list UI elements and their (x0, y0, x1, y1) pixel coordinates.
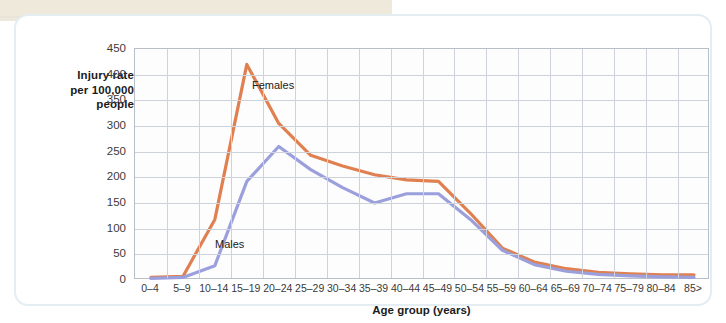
gridline-vertical (614, 49, 615, 278)
gridline-horizontal (135, 177, 708, 178)
x-axis-tick-label: 20–24 (263, 282, 292, 294)
x-axis-tick-label: 60–64 (519, 282, 548, 294)
x-axis-tick-label: 75–79 (615, 282, 644, 294)
y-axis-tick-label: 450 (107, 42, 126, 54)
gridline-vertical (582, 49, 583, 278)
x-axis-tick-label: 65–69 (551, 282, 580, 294)
series-label-males: Males (215, 238, 244, 250)
x-axis-tick-label: 15–19 (231, 282, 260, 294)
gridline-vertical (199, 49, 200, 278)
y-axis-tick-label: 400 (107, 68, 126, 80)
y-axis-tick-labels: 050100150200250300350400450 (16, 16, 134, 279)
x-axis-tick-label: 35–39 (359, 282, 388, 294)
x-axis-tick-label: 25–29 (295, 282, 324, 294)
gridline-horizontal (135, 254, 708, 255)
y-axis-tick-label: 350 (107, 93, 126, 105)
y-axis-tick-label: 250 (107, 145, 126, 157)
gridline-vertical (678, 49, 679, 278)
gridline-vertical (423, 49, 424, 278)
gridline-vertical (391, 49, 392, 278)
gridline-vertical (167, 49, 168, 278)
y-axis-tick-label: 200 (107, 170, 126, 182)
x-axis-tick-label: 80–84 (646, 282, 675, 294)
gridline-vertical (327, 49, 328, 278)
x-axis-tick-label: 70–74 (583, 282, 612, 294)
x-axis-tick-label: 50–54 (455, 282, 484, 294)
x-axis-tick-label: 40–44 (391, 282, 420, 294)
gridline-horizontal (135, 203, 708, 204)
x-axis-title: Age group (years) (134, 304, 709, 316)
gridline-vertical (486, 49, 487, 278)
x-axis-tick-label: 55–59 (487, 282, 516, 294)
x-axis-tick-label: 5–9 (173, 282, 191, 294)
y-axis-tick-label: 300 (107, 119, 126, 131)
gridline-vertical (646, 49, 647, 278)
gridline-vertical (359, 49, 360, 278)
gridline-horizontal (135, 75, 708, 76)
chart-page: Injury rate per 100,000 people 050100150… (0, 0, 726, 323)
y-axis-tick-label: 150 (107, 196, 126, 208)
x-axis-tick-label: 85> (684, 282, 702, 294)
gridline-vertical (454, 49, 455, 278)
x-axis-tick-label: 45–49 (423, 282, 452, 294)
x-axis-tick-label: 30–34 (327, 282, 356, 294)
gridline-vertical (295, 49, 296, 278)
gridline-horizontal (135, 229, 708, 230)
gridline-vertical (550, 49, 551, 278)
gridline-horizontal (135, 126, 708, 127)
chart-card: Injury rate per 100,000 people 050100150… (14, 14, 712, 306)
gridline-vertical (518, 49, 519, 278)
gridline-horizontal (135, 100, 708, 101)
x-axis-tick-label: 10–14 (199, 282, 228, 294)
series-label-females: Females (252, 79, 294, 91)
gridline-horizontal (135, 152, 708, 153)
x-axis-tick-label: 0–4 (141, 282, 159, 294)
y-axis-tick-label: 100 (107, 222, 126, 234)
y-axis-tick-label: 0 (120, 273, 126, 285)
y-axis-tick-label: 50 (113, 247, 126, 259)
x-axis-tick-labels: 0–45–910–1415–1920–2425–2930–3435–3940–4… (134, 282, 709, 300)
